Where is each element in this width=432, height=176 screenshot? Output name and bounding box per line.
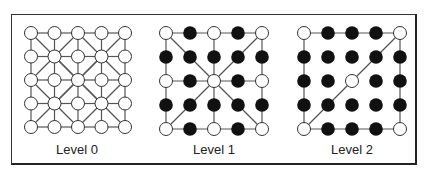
open-node: [72, 97, 85, 110]
level-2-grid: [297, 26, 407, 136]
open-node: [160, 27, 173, 40]
open-node: [72, 121, 85, 134]
filled-node: [159, 98, 173, 112]
open-node: [119, 74, 132, 87]
open-node: [25, 74, 38, 87]
filled-node: [183, 74, 197, 88]
open-node: [25, 121, 38, 134]
filled-node: [231, 50, 245, 64]
filled-node: [321, 50, 335, 64]
open-node: [256, 75, 269, 88]
filled-node: [297, 98, 311, 112]
open-node: [25, 50, 38, 63]
level-0-grid: [25, 27, 132, 134]
open-node: [119, 27, 132, 40]
filled-node: [231, 122, 245, 136]
open-node: [48, 27, 61, 40]
level-1-label: Level 1: [193, 142, 235, 157]
level-0-label: Level 0: [56, 142, 98, 157]
open-node: [48, 121, 61, 134]
filled-node: [183, 26, 197, 40]
filled-node: [393, 50, 407, 64]
open-node: [95, 27, 108, 40]
open-node: [72, 27, 85, 40]
filled-node: [255, 98, 269, 112]
filled-node: [231, 74, 245, 88]
filled-node: [255, 50, 269, 64]
open-node: [394, 123, 407, 136]
open-node: [48, 74, 61, 87]
open-node: [298, 123, 311, 136]
open-node: [346, 75, 359, 88]
open-node: [25, 27, 38, 40]
filled-node: [183, 98, 197, 112]
open-node: [95, 50, 108, 63]
filled-node: [321, 26, 335, 40]
filled-node: [369, 26, 383, 40]
filled-node: [369, 122, 383, 136]
filled-node: [183, 50, 197, 64]
open-node: [208, 75, 221, 88]
open-node: [95, 74, 108, 87]
open-node: [48, 50, 61, 63]
open-node: [72, 74, 85, 87]
filled-node: [297, 74, 311, 88]
filled-node: [207, 98, 221, 112]
filled-node: [345, 98, 359, 112]
level-2-label: Level 2: [331, 142, 373, 157]
filled-node: [393, 74, 407, 88]
filled-node: [369, 50, 383, 64]
open-node: [256, 123, 269, 136]
filled-node: [231, 98, 245, 112]
filled-node: [345, 50, 359, 64]
filled-node: [321, 122, 335, 136]
filled-node: [369, 74, 383, 88]
open-node: [119, 50, 132, 63]
open-node: [72, 50, 85, 63]
filled-node: [159, 50, 173, 64]
filled-node: [393, 98, 407, 112]
open-node: [25, 97, 38, 110]
open-node: [208, 123, 221, 136]
open-node: [298, 27, 311, 40]
filled-node: [231, 26, 245, 40]
filled-node: [183, 122, 197, 136]
filled-node: [321, 74, 335, 88]
filled-node: [369, 98, 383, 112]
open-node: [394, 27, 407, 40]
filled-node: [207, 50, 221, 64]
open-node: [208, 27, 221, 40]
filled-node: [345, 122, 359, 136]
open-node: [119, 97, 132, 110]
open-node: [48, 97, 61, 110]
open-node: [256, 27, 269, 40]
open-node: [119, 121, 132, 134]
open-node: [160, 75, 173, 88]
open-node: [160, 123, 173, 136]
level-1-grid: [159, 26, 269, 136]
open-node: [95, 121, 108, 134]
filled-node: [297, 50, 311, 64]
filled-node: [345, 26, 359, 40]
filled-node: [321, 98, 335, 112]
open-node: [95, 97, 108, 110]
